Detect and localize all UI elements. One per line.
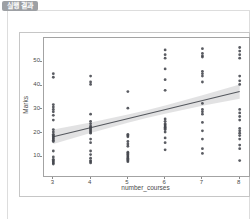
data-point	[201, 81, 204, 84]
data-point	[89, 138, 92, 141]
data-point	[89, 113, 92, 116]
data-point	[126, 90, 129, 93]
data-point	[164, 68, 167, 71]
data-point	[201, 113, 204, 116]
data-point	[164, 137, 167, 140]
data-point	[89, 162, 92, 165]
result-panel: 3456781020304050 number_courses Marks	[7, 10, 250, 219]
data-point	[52, 110, 55, 113]
x-axis-label: number_courses	[43, 184, 248, 191]
y-tick-label: 40	[31, 81, 40, 87]
y-tick-label: 50	[31, 57, 40, 63]
y-tick	[40, 61, 42, 62]
data-point	[89, 141, 92, 144]
data-point	[201, 56, 204, 59]
data-point	[52, 119, 55, 122]
data-point	[238, 119, 241, 122]
data-point	[89, 83, 92, 86]
data-point	[164, 89, 167, 92]
y-tick-label: 20	[31, 129, 40, 135]
data-point	[238, 134, 241, 137]
scatter-plot	[44, 38, 249, 176]
data-point	[238, 83, 241, 86]
y-tick-label: 30	[31, 105, 40, 111]
data-point	[126, 145, 129, 148]
data-point	[238, 115, 241, 118]
data-point	[52, 163, 55, 166]
data-point	[201, 152, 204, 155]
data-point	[164, 53, 167, 56]
regression-line	[53, 92, 239, 137]
y-tick	[40, 132, 42, 133]
data-point	[238, 147, 241, 150]
data-point	[238, 53, 241, 56]
data-point	[126, 107, 129, 110]
scatter-plot-area	[43, 37, 250, 177]
data-point	[238, 144, 241, 147]
data-point	[164, 148, 167, 151]
data-point	[238, 57, 241, 60]
data-point	[89, 150, 92, 153]
data-point	[52, 72, 55, 75]
data-point	[201, 138, 204, 141]
data-point	[238, 108, 241, 111]
data-point	[164, 57, 167, 60]
y-tick	[40, 108, 42, 109]
data-point	[164, 141, 167, 144]
data-point	[164, 131, 167, 134]
y-tick-label: 10	[31, 152, 40, 158]
execution-result-badge: 실행 결과	[2, 1, 38, 11]
data-point	[52, 140, 55, 143]
data-point	[238, 138, 241, 141]
data-point	[238, 46, 241, 49]
data-point	[201, 75, 204, 78]
y-tick	[40, 156, 42, 157]
data-point	[126, 160, 129, 163]
data-point	[164, 48, 167, 51]
data-point	[238, 159, 241, 162]
data-point	[89, 153, 92, 156]
data-point	[238, 79, 241, 82]
data-point	[238, 75, 241, 78]
data-point	[126, 135, 129, 138]
data-point	[164, 78, 167, 81]
y-tick	[40, 85, 42, 86]
chart-figure: 3456781020304050 number_courses Marks	[19, 32, 250, 197]
data-point	[238, 112, 241, 115]
data-point	[238, 50, 241, 53]
data-point	[201, 129, 204, 132]
data-point	[52, 76, 55, 79]
data-point	[201, 47, 204, 50]
data-point	[201, 102, 204, 105]
data-point	[201, 121, 204, 124]
data-point	[89, 132, 92, 135]
y-axis-label: Marks	[22, 96, 29, 114]
data-point	[52, 114, 55, 117]
data-point	[52, 150, 55, 153]
data-point	[201, 147, 204, 150]
data-point	[89, 75, 92, 78]
